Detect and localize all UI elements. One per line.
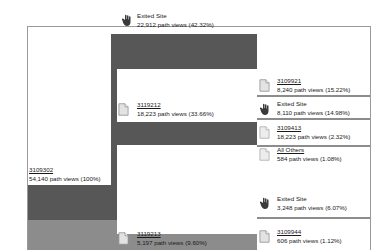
flow-ribbon-root-trunk: [28, 185, 117, 220]
node-label: Exited Site: [277, 100, 350, 108]
divider-right-1: [257, 95, 370, 97]
hand-cursor-icon: [259, 197, 270, 210]
node-stat: 8,240 path views (15.22%): [277, 86, 350, 94]
node-label: Exited Site: [137, 12, 214, 20]
divider-right-2: [257, 118, 370, 120]
node-stat: 8,110 path views (14.98%): [277, 109, 350, 117]
node-3109302-root[interactable]: 3109302 54,140 path views (100%): [29, 166, 101, 183]
page-icon: [259, 230, 270, 243]
node-stat: 18,223 path views (2.32%): [277, 133, 350, 141]
node-label: Exited Site: [277, 195, 347, 203]
node-stat: 584 path views (1.08%): [277, 155, 342, 163]
node-3109944[interactable]: 3109944 606 path views (1.12%): [277, 228, 342, 245]
flow-ribbon-exited-top: [111, 34, 257, 69]
node-stat: 606 path views (1.12%): [277, 237, 342, 245]
node-label[interactable]: All Others: [277, 146, 342, 154]
node-label[interactable]: 3119212: [137, 101, 214, 109]
node-label[interactable]: 3109413: [277, 124, 350, 132]
node-all-others[interactable]: All Others 584 path views (1.08%): [277, 146, 342, 163]
page-icon: [259, 79, 270, 92]
chart-frame-right-edge: [370, 26, 371, 250]
node-3119212[interactable]: 3119212 18,223 path views (33.66%): [137, 101, 214, 118]
node-stat: 3,248 path views (6.07%): [277, 204, 347, 212]
hand-cursor-icon: [259, 103, 270, 116]
node-label[interactable]: 3119213: [137, 230, 207, 238]
node-stat: 54,140 path views (100%): [29, 175, 101, 183]
node-stat: 18,223 path views (33.66%): [137, 110, 214, 118]
page-icon: [118, 232, 129, 245]
node-stat: 5,197 path views (9.60%): [137, 239, 207, 247]
node-exited-mid[interactable]: Exited Site 8,110 path views (14.98%): [277, 100, 350, 117]
node-3119213[interactable]: 3119213 5,197 path views (9.60%): [137, 230, 207, 247]
page-icon: [259, 126, 270, 139]
node-label[interactable]: 3109921: [277, 77, 350, 85]
node-label[interactable]: 3109944: [277, 228, 342, 236]
path-flow-diagram: Exited Site 22,912 path views (42.32%) 3…: [0, 0, 378, 252]
page-icon: [118, 103, 129, 116]
node-3109413[interactable]: 3109413 18,223 path views (2.32%): [277, 124, 350, 141]
page-icon: [259, 148, 270, 161]
node-3109921[interactable]: 3109921 8,240 path views (15.22%): [277, 77, 350, 94]
node-label[interactable]: 3109302: [29, 166, 101, 174]
node-exited-bottom[interactable]: Exited Site 3,248 path views (6.07%): [277, 195, 347, 212]
hand-cursor-icon: [121, 14, 132, 27]
flow-ribbon-3119212: [117, 122, 257, 145]
node-stat: 22,912 path views (42.32%): [137, 21, 214, 29]
divider-right-4: [257, 217, 370, 219]
node-exited-top[interactable]: Exited Site 22,912 path views (42.32%): [137, 12, 214, 29]
